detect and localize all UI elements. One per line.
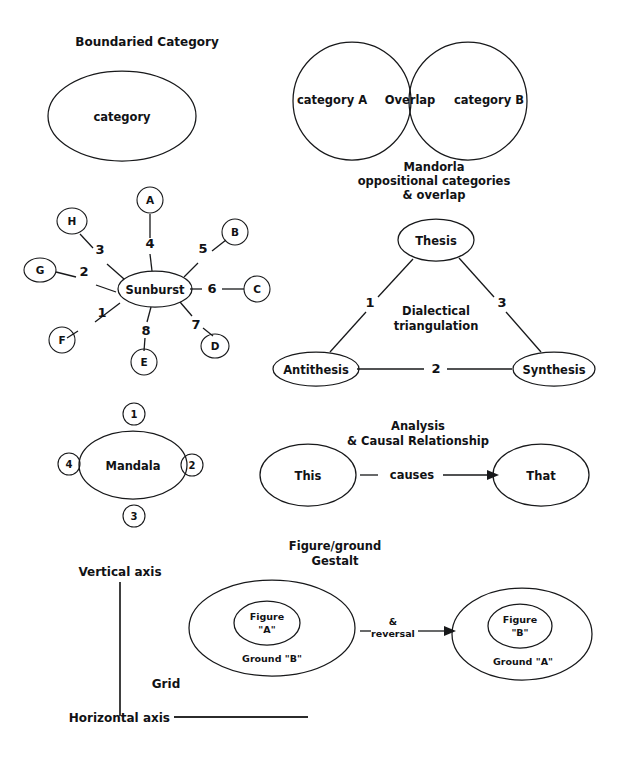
sunburst-spoke-line-3b bbox=[80, 234, 93, 248]
causal-target-label: That bbox=[526, 469, 556, 483]
triangulation-edge-right-upper bbox=[459, 258, 494, 297]
sunburst-node-label-a: A bbox=[146, 194, 155, 206]
sunburst-spoke-number-5: 5 bbox=[198, 241, 207, 256]
triangulation-edge-left-lower bbox=[330, 312, 366, 352]
figure-ground-right-figure-line-2: "B" bbox=[511, 627, 528, 638]
sunburst-spoke-line-2b bbox=[56, 272, 76, 277]
mandala-node-bottom-label: 3 bbox=[131, 511, 138, 522]
sunburst-spoke-line-8 bbox=[147, 307, 151, 322]
sunburst-spoke-line-4 bbox=[150, 254, 152, 271]
figure-ground-left-figure-line-2: "A" bbox=[258, 624, 275, 635]
figure-ground-left-ground-label: Ground "B" bbox=[242, 653, 302, 664]
figure-ground-transition-line-1: & bbox=[389, 616, 397, 627]
sunburst-center-label: Sunburst bbox=[125, 283, 185, 297]
triangulation-edge-left-upper bbox=[378, 259, 413, 297]
mandorla-caption-line-1: Mandorla bbox=[404, 160, 465, 174]
sunburst-node-label-h: H bbox=[68, 215, 77, 227]
sunburst-spoke-number-7: 7 bbox=[191, 317, 200, 332]
causal-caption-line-2: & Causal Relationship bbox=[347, 434, 489, 448]
causal-relationship-group: Analysis & Causal Relationship This caus… bbox=[260, 419, 589, 507]
triangulation-caption-line-2: triangulation bbox=[394, 319, 479, 333]
triangulation-node-synthesis-label: Synthesis bbox=[522, 363, 585, 377]
figure-ground-right-ground-label: Ground "A" bbox=[493, 656, 553, 667]
figure-ground-right-figure-line-1: Figure bbox=[503, 614, 537, 625]
concept-diagram-sheet: Boundaried Category category category A … bbox=[0, 0, 619, 763]
sunburst-node-label-b: B bbox=[231, 226, 239, 238]
figure-ground-caption-line-2: Gestalt bbox=[312, 554, 359, 568]
horizontal-axis-label: Horizontal axis bbox=[69, 711, 170, 725]
sunburst-spoke-number-3: 3 bbox=[95, 242, 104, 257]
mandala-node-right-label: 2 bbox=[189, 460, 196, 471]
mandala-group: Mandala 1 2 3 4 bbox=[58, 403, 203, 527]
figure-ground-arrow-head-icon bbox=[444, 626, 456, 636]
mandorla-caption-line-3: & overlap bbox=[403, 188, 466, 202]
causal-source-label: This bbox=[295, 469, 322, 483]
mandorla-label-b: category B bbox=[454, 93, 524, 107]
sunburst-node-label-f: F bbox=[58, 334, 65, 346]
mandorla-group: category A Overlap category B Mandorla o… bbox=[293, 42, 527, 202]
triangulation-edge-number-3: 3 bbox=[497, 295, 506, 310]
sunburst-spoke-number-8: 8 bbox=[141, 323, 150, 338]
sunburst-spoke-line-3 bbox=[107, 264, 124, 279]
sunburst-node-label-g: G bbox=[36, 264, 45, 276]
sunburst-spoke-line-7 bbox=[180, 302, 192, 316]
figure-ground-caption-line-1: Figure/ground bbox=[289, 539, 381, 553]
sunburst-node-label-c: C bbox=[253, 283, 261, 295]
figure-ground-group: Figure/ground Gestalt Figure "A" Ground … bbox=[189, 539, 592, 681]
sunburst-spoke-number-6: 6 bbox=[207, 281, 216, 296]
mandorla-label-overlap: Overlap bbox=[385, 93, 436, 107]
triangulation-node-antithesis-label: Antithesis bbox=[283, 363, 349, 377]
causal-relation-label: causes bbox=[390, 468, 434, 482]
boundaried-category-group: Boundaried Category category bbox=[48, 35, 219, 162]
figure-ground-left-figure-line-1: Figure bbox=[250, 611, 284, 622]
sunburst-node-label-e: E bbox=[140, 356, 147, 368]
sunburst-spoke-line-5b bbox=[212, 240, 226, 251]
sunburst-node-label-d: D bbox=[211, 340, 220, 352]
figure-ground-transition-line-2: reversal bbox=[371, 628, 415, 639]
triangulation-edge-number-1: 1 bbox=[365, 295, 374, 310]
sunburst-spoke-number-1: 1 bbox=[97, 305, 106, 320]
sunburst-spoke-line-2 bbox=[96, 285, 116, 292]
mandala-node-left-label: 4 bbox=[66, 459, 73, 470]
mandorla-label-a: category A bbox=[297, 93, 367, 107]
sunburst-spoke-line-5 bbox=[184, 263, 198, 277]
sunburst-group: 1 2 3 4 5 6 7 8 Sunburst F G H A B C D E bbox=[24, 187, 270, 375]
triangulation-node-thesis-label: Thesis bbox=[415, 234, 457, 248]
triangulation-edge-number-2: 2 bbox=[431, 361, 440, 376]
category-ellipse-label: category bbox=[93, 110, 151, 124]
mandala-node-top-label: 1 bbox=[131, 409, 138, 420]
mandala-center-label: Mandala bbox=[105, 459, 160, 473]
boundaried-category-title: Boundaried Category bbox=[75, 35, 219, 49]
triangulation-edge-right-lower bbox=[506, 312, 541, 352]
causal-caption-line-1: Analysis bbox=[391, 419, 445, 433]
grid-label: Grid bbox=[152, 677, 180, 691]
sunburst-spoke-number-2: 2 bbox=[79, 264, 88, 279]
triangulation-caption-line-1: Dialectical bbox=[402, 304, 470, 318]
vertical-axis-label: Vertical axis bbox=[78, 565, 161, 579]
mandorla-caption-line-2: oppositional categories bbox=[358, 174, 511, 188]
dialectical-triangulation-group: 1 2 3 Thesis Antithesis Synthesis Dialec… bbox=[273, 219, 595, 386]
sunburst-spoke-number-4: 4 bbox=[145, 236, 154, 251]
